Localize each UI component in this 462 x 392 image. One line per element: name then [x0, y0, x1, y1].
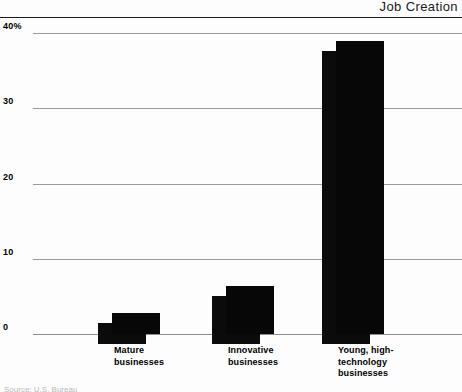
- chart-container: Job Creation 40%3020100Mature businesses…: [0, 0, 462, 392]
- gridline-40: [33, 33, 462, 34]
- category-label: Young, high- technology businesses: [338, 345, 394, 380]
- gridline-20: [33, 184, 462, 185]
- y-axis-label-40: 40%: [3, 21, 22, 31]
- plot-area: 40%3020100Mature businessesInnovative bu…: [0, 0, 462, 392]
- bar[interactable]: [112, 313, 160, 334]
- bar[interactable]: [336, 41, 384, 334]
- y-axis-label-0: 0: [3, 322, 8, 332]
- category-label: Innovative businesses: [228, 345, 278, 368]
- bar[interactable]: [226, 286, 274, 334]
- y-axis-label-20: 20: [3, 172, 13, 182]
- y-axis-label-10: 10: [3, 247, 13, 257]
- category-label: Mature businesses: [114, 345, 164, 368]
- y-axis-label-30: 30: [3, 96, 13, 106]
- gridline-30: [33, 108, 462, 109]
- gridline-10: [33, 259, 462, 260]
- source-note: Source: U.S. Bureau: [4, 385, 77, 392]
